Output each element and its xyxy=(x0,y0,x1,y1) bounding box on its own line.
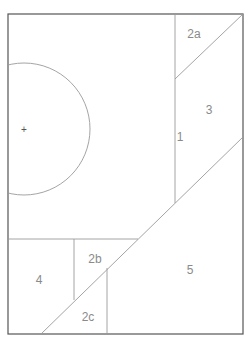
outer-frame xyxy=(8,14,243,334)
region-label-2a: 2a xyxy=(187,27,200,41)
center-marker: + xyxy=(21,124,27,135)
region-label-2c: 2c xyxy=(82,310,95,324)
region-label-1: 1 xyxy=(177,130,184,144)
region-label-2b: 2b xyxy=(88,252,101,266)
divider-diagonal-2a xyxy=(175,14,243,79)
circle-arc xyxy=(0,63,90,195)
diagram-canvas xyxy=(0,0,250,342)
region-label-3: 3 xyxy=(206,103,213,117)
region-label-5: 5 xyxy=(187,263,194,277)
divider-diagonal-main xyxy=(41,137,243,334)
region-label-4: 4 xyxy=(36,273,43,287)
